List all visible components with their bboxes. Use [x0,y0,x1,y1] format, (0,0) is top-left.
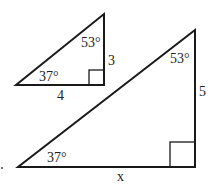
large-angle-top-label: 53° [170,51,190,66]
small-right-angle-marker [89,70,104,85]
stray-dot-mark [1,167,3,169]
similar-triangles-diagram: 53° 3 37° 4 53° 5 37° x [0,0,216,189]
small-side-vertical-label: 3 [108,53,115,68]
small-triangle: 53° 3 37° 4 [16,14,115,103]
large-angle-bottom-left-label: 37° [47,150,67,165]
small-angle-top-label: 53° [81,35,101,50]
small-angle-bottom-left-label: 37° [39,69,59,84]
large-right-angle-marker [170,142,195,167]
large-side-vertical-label: 5 [199,84,206,99]
large-triangle-outline [18,30,195,167]
large-side-horizontal-label: x [117,169,124,184]
small-side-horizontal-label: 4 [57,88,64,103]
